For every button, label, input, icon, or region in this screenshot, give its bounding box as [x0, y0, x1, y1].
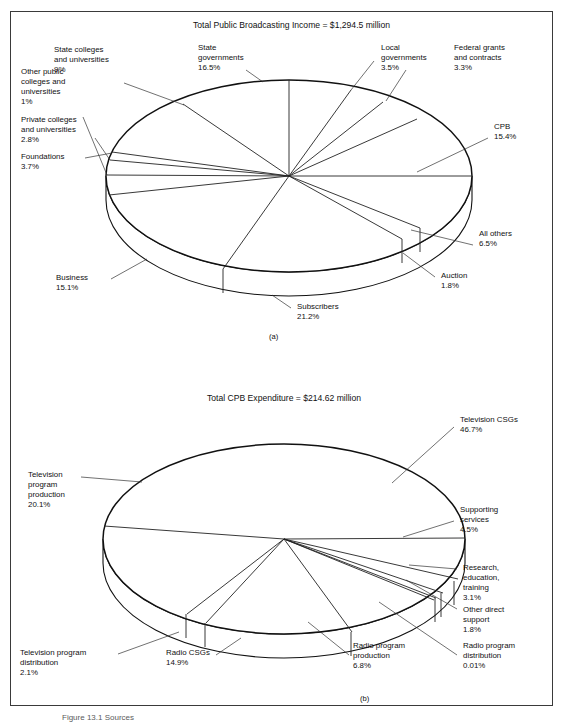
svg-text:training: training: [463, 583, 489, 592]
svg-text:universities: universities: [21, 87, 61, 96]
svg-text:1.8%: 1.8%: [463, 625, 481, 634]
svg-text:Federal grants: Federal grants: [454, 43, 505, 52]
svg-text:16.5%: 16.5%: [198, 63, 220, 72]
svg-text:15.1%: 15.1%: [56, 283, 78, 292]
svg-text:Business: Business: [56, 273, 88, 282]
svg-text:Other direct: Other direct: [463, 605, 505, 614]
svg-text:production: production: [28, 490, 65, 499]
chart-a-label-foundations: Foundations 3.7%: [21, 152, 64, 171]
svg-text:46.7%: 46.7%: [460, 425, 482, 434]
svg-text:and universities: and universities: [54, 55, 109, 64]
svg-text:distribution: distribution: [20, 658, 58, 667]
svg-text:Radio program: Radio program: [353, 641, 406, 650]
svg-text:production: production: [353, 651, 390, 660]
svg-text:education,: education,: [463, 573, 499, 582]
figure-caption: Figure 13.1 Sources: [62, 713, 134, 722]
svg-text:Foundations: Foundations: [21, 152, 64, 161]
svg-text:All others: All others: [479, 229, 512, 238]
chart-a-label-business: Business 15.1%: [56, 273, 88, 292]
svg-text:governments: governments: [381, 53, 427, 62]
svg-text:3.3%: 3.3%: [454, 63, 472, 72]
chart-a-label-local-governments: Local governments 3.5%: [381, 43, 427, 72]
chart-b-label-other-direct-support: Other direct support 1.8%: [463, 605, 505, 634]
chart-a-title: Total Public Broadcasting Income = $1,29…: [193, 20, 390, 30]
svg-text:State colleges: State colleges: [54, 45, 104, 54]
chart-a-label-private-colleges: Private colleges and universities 2.8%: [21, 115, 77, 144]
chart-b-label-radio-program-production: Radio program production 6.8%: [353, 641, 406, 670]
svg-text:support: support: [463, 615, 490, 624]
svg-text:CPB: CPB: [494, 122, 510, 131]
svg-text:6.8%: 6.8%: [353, 661, 371, 670]
chart-b-label-television-program-distribution: Television program distribution 2.1%: [20, 648, 87, 677]
chart-a-label-state-colleges: State colleges and universities 9%: [54, 45, 109, 74]
svg-text:6.5%: 6.5%: [479, 239, 497, 248]
svg-text:Television program: Television program: [20, 648, 87, 657]
svg-text:9%: 9%: [54, 65, 65, 74]
chart-a-label-auction: Auction 1.8%: [441, 271, 467, 290]
svg-text:and contracts: and contracts: [454, 53, 501, 62]
svg-text:Research,: Research,: [463, 563, 499, 572]
chart-b-label-television-program-production: Television program production 20.1%: [28, 470, 65, 509]
svg-text:20.1%: 20.1%: [28, 500, 50, 509]
svg-text:Television CSGs: Television CSGs: [460, 415, 518, 424]
chart-b-label-supporting-services: Supporting services 4.5%: [460, 505, 498, 534]
svg-text:Radio program: Radio program: [463, 641, 516, 650]
svg-text:Auction: Auction: [441, 271, 467, 280]
svg-text:services: services: [460, 515, 489, 524]
svg-text:Subscribers: Subscribers: [297, 302, 339, 311]
svg-text:governments: governments: [198, 53, 244, 62]
svg-text:21.2%: 21.2%: [297, 312, 319, 321]
svg-text:Television: Television: [28, 470, 63, 479]
chart-a-label-state-governments: State governments 16.5%: [198, 43, 244, 72]
panel-a-label: (a): [269, 332, 279, 341]
svg-text:14.9%: 14.9%: [166, 658, 188, 667]
svg-text:Radio CSGs: Radio CSGs: [166, 648, 210, 657]
chart-a-label-subscribers: Subscribers 21.2%: [297, 302, 339, 321]
svg-text:colleges and: colleges and: [21, 77, 65, 86]
svg-text:15.4%: 15.4%: [494, 132, 516, 141]
svg-text:and universities: and universities: [21, 125, 76, 134]
svg-text:3.7%: 3.7%: [21, 162, 39, 171]
svg-text:1.8%: 1.8%: [441, 281, 459, 290]
svg-text:3.1%: 3.1%: [463, 593, 481, 602]
svg-text:distribution: distribution: [463, 651, 501, 660]
svg-text:1%: 1%: [21, 97, 32, 106]
svg-text:Supporting: Supporting: [460, 505, 498, 514]
chart-a-label-cpb: CPB 15.4%: [494, 122, 516, 141]
svg-text:4.5%: 4.5%: [460, 525, 478, 534]
svg-text:Local: Local: [381, 43, 400, 52]
chart-cpb-expenditure: Total CPB Expenditure = $214.62 million: [11, 357, 552, 707]
svg-text:Private colleges: Private colleges: [21, 115, 77, 124]
chart-b-label-radio-program-distribution: Radio program distribution 0.01%: [463, 641, 516, 670]
panel-b-label: (b): [360, 694, 370, 703]
chart-b-label-radio-csgs: Radio CSGs 14.9%: [166, 648, 210, 667]
figure-frame: Total Public Broadcasting Income = $1,29…: [10, 11, 553, 706]
svg-text:program: program: [28, 480, 58, 489]
chart-a-label-all-others: All others 6.5%: [479, 229, 512, 248]
svg-text:2.8%: 2.8%: [21, 135, 39, 144]
chart-a-label-federal-grants: Federal grants and contracts 3.3%: [454, 43, 505, 72]
chart-b-label-research-education-training: Research, education, training 3.1%: [463, 563, 499, 602]
chart-b-label-television-csgs: Television CSGs 46.7%: [460, 415, 518, 434]
svg-text:0.01%: 0.01%: [463, 661, 485, 670]
chart-public-broadcasting-income: Total Public Broadcasting Income = $1,29…: [11, 12, 552, 362]
svg-text:State: State: [198, 43, 217, 52]
svg-text:2.1%: 2.1%: [20, 668, 38, 677]
chart-b-title: Total CPB Expenditure = $214.62 million: [207, 393, 361, 403]
svg-text:3.5%: 3.5%: [381, 63, 399, 72]
